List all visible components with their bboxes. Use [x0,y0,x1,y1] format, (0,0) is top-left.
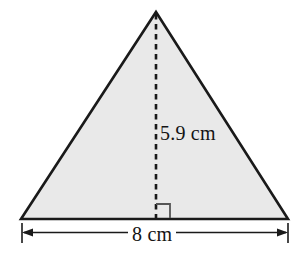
dimension-arrowhead-right [277,229,288,237]
triangle-shape [21,12,288,219]
triangle-figure [0,0,304,256]
dimension-arrowhead-left [22,229,33,237]
height-measurement-label: 5.9 cm [160,123,216,143]
base-measurement-label: 8 cm [128,224,176,244]
